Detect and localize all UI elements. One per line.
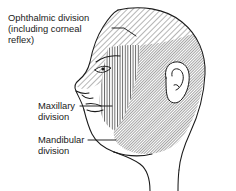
maxillary-label-line1: Maxillary: [38, 100, 75, 111]
maxillary-label-line2: division: [38, 111, 69, 122]
ophthalmic-label-line3: reflex): [8, 34, 34, 45]
trigeminal-nerve-diagram: Trigeminal nerve sensory divisions of th…: [0, 0, 236, 191]
mandibular-label-line2: division: [38, 145, 69, 156]
mandibular-label-line1: Mandibular: [38, 134, 84, 145]
ophthalmic-label-line1: Ophthalmic division: [8, 12, 89, 23]
ophthalmic-label-line2: (including corneal: [8, 23, 81, 34]
